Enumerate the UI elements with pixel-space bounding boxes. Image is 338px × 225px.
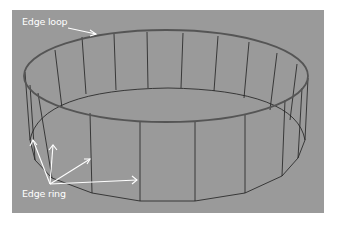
- edge-loop-label: Edge loop: [22, 16, 67, 27]
- edge-loop-highlight: [24, 30, 308, 122]
- bottom-rim-back: [30, 88, 305, 140]
- edge-ring-label: Edge ring: [22, 188, 66, 199]
